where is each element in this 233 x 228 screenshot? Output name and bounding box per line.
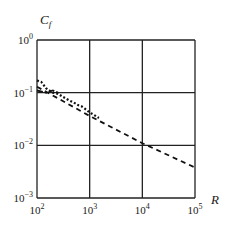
y-tick-label: 10−2 [13,137,33,151]
x-tick-labels: 102103104105 [30,202,203,216]
grid [37,40,195,198]
y-tick-label: 100 [18,32,33,46]
y-axis-label: Cf [40,12,53,29]
y-tick-labels: 10010−110−210−3 [13,32,33,204]
x-tick-label: 102 [30,202,45,216]
x-tick-label: 105 [188,202,203,216]
chart: 10010−110−210−3 102103104105 Cf R [0,0,233,228]
series-power-law-fit [37,87,195,168]
x-tick-label: 103 [82,202,97,216]
y-tick-label: 10−3 [13,190,33,204]
x-tick-label: 104 [135,202,150,216]
series-layer [37,81,195,168]
x-axis-label: R [210,192,219,207]
y-tick-label: 10−1 [13,85,33,99]
